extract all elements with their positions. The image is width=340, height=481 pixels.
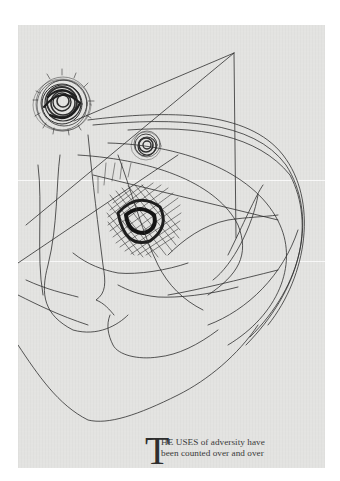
large-scribble-circle [33, 69, 94, 135]
profile-contour-lines [18, 135, 278, 421]
document-page: T HE USES of adversity have been counted… [18, 25, 325, 468]
caption-text-block: T HE USES of adversity have been counted… [145, 437, 325, 467]
caption-line-1: HE USES of adversity have [161, 437, 265, 448]
line-drawing-illustration [18, 25, 325, 468]
small-scribble-circle [131, 131, 161, 160]
caption-line-2: been counted over and over [161, 448, 264, 459]
crosshatch-shadow [98, 163, 181, 257]
